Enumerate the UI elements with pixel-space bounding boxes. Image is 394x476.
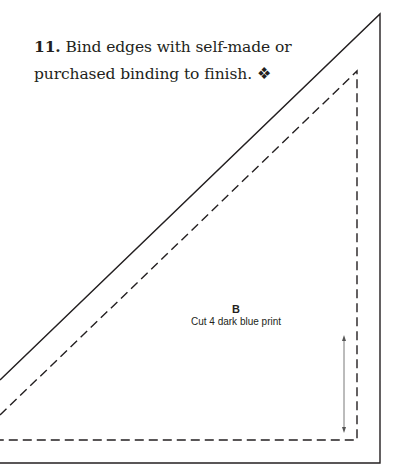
seam-line	[0, 71, 357, 440]
piece-letter: B	[170, 303, 302, 315]
cutting-line	[0, 14, 380, 463]
cut-instruction: Cut 4 dark blue print	[170, 315, 302, 328]
template-piece-b	[0, 0, 394, 476]
grain-line-arrow	[342, 335, 346, 433]
piece-label: B Cut 4 dark blue print	[170, 303, 302, 328]
